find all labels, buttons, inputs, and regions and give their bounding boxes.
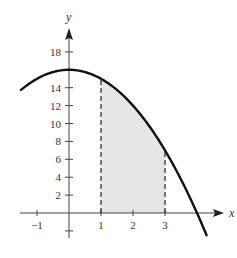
shaded-region: [101, 79, 165, 213]
y-tick-label: 2: [56, 189, 62, 201]
y-tick-label: 4: [56, 171, 62, 183]
function-plot: −1123246810121418 x y: [0, 0, 237, 258]
y-tick-label: 14: [50, 82, 62, 94]
shaded-area: [101, 79, 165, 213]
y-tick-label: 10: [50, 118, 62, 130]
y-tick-label: 6: [56, 153, 62, 165]
y-tick-label: 18: [50, 46, 62, 58]
y-tick-label: 12: [50, 100, 61, 112]
x-tick-label: 1: [98, 219, 104, 231]
x-tick-label: −1: [31, 219, 43, 231]
y-tick-label: 8: [56, 135, 62, 147]
x-tick-label: 2: [130, 219, 136, 231]
x-axis-label: x: [228, 206, 235, 220]
y-axis-label: y: [65, 10, 72, 24]
x-tick-label: 3: [162, 219, 168, 231]
